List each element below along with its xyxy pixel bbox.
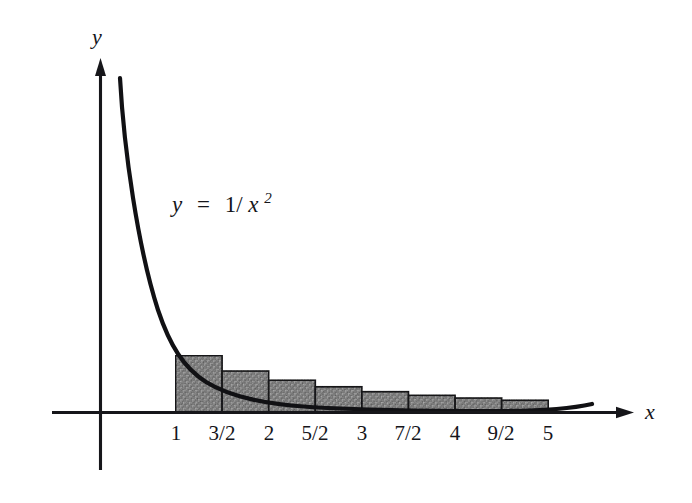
x-axis-arrowhead [616,407,634,418]
x-axis-label: x [644,399,655,424]
equation-annotation: y = 1/ x 2 [170,190,272,217]
x-tick-label-1: 3/2 [209,421,236,445]
equation-exponent: 2 [264,190,272,206]
x-tick-label-3: 5/2 [302,421,329,445]
y-axis-label: y [90,24,102,49]
x-tick-label-6: 4 [450,421,461,445]
x-tick-label-0: 1 [171,421,182,445]
riemann-rectangles [176,356,549,413]
svg-text:y = 1/: y = 1/ x 2 [170,190,272,217]
x-tick-label-7: 9/2 [488,421,515,445]
x-tick-label-group: 13/225/237/249/25 [171,421,554,445]
equation-numerator: 1/ [225,192,244,217]
figure-canvas: y x y = 1/ x 2 13/225/237/249/25 [0,0,692,503]
equation-lhs: y [170,192,183,217]
x-tick-label-2: 2 [264,421,275,445]
y-axis-arrowhead [95,58,106,76]
equation-equals: = [197,192,210,217]
math-figure: y x y = 1/ x 2 13/225/237/249/25 [0,0,692,503]
x-tick-label-5: 7/2 [395,421,422,445]
x-tick-label-4: 3 [357,421,368,445]
x-tick-label-8: 5 [543,421,554,445]
bar-1 [176,356,223,413]
equation-base: x [247,192,259,217]
